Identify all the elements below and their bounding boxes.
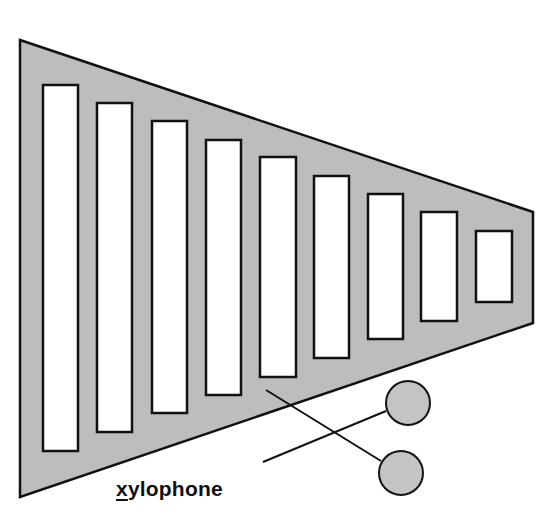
xylophone-bar-8 [421,212,457,321]
mallet-head [379,451,423,495]
word-remainder: ylophone [128,477,223,500]
mallet-head [386,381,430,425]
xylophone-bar-6 [314,176,349,358]
word-label: xylophone [116,477,223,501]
mallet-stick [266,390,381,461]
xylophone-diagram [0,0,552,522]
xylophone-bar-3 [152,121,187,413]
xylophone-bar-4 [206,140,241,395]
underlined-initial-letter: x [116,477,128,500]
mallet-stick [263,411,386,462]
xylophone-bar-5 [260,157,296,377]
xylophone-bar-9 [476,231,512,302]
xylophone-bar-1 [43,85,78,451]
xylophone-bar-7 [368,194,403,339]
xylophone-bar-2 [97,103,132,432]
